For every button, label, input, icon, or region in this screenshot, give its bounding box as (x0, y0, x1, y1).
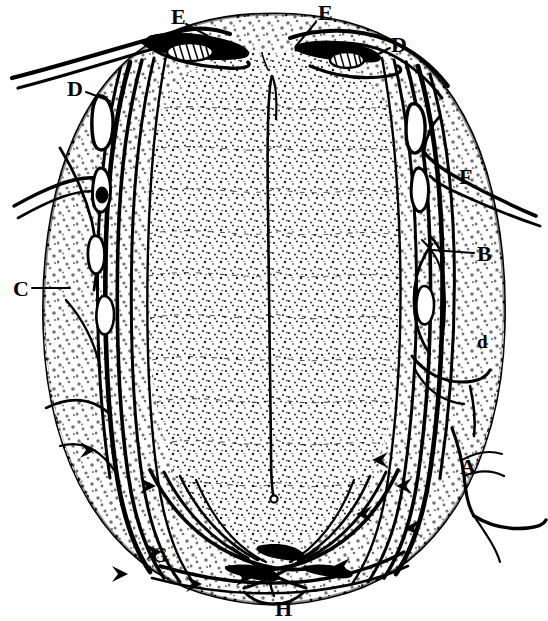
figure-label-D-left: D (67, 78, 83, 100)
figure-label-A: A (460, 456, 476, 478)
figure-label-F: F (459, 166, 472, 188)
anatomical-figure: E E D D F B C d A G H (0, 0, 548, 621)
figure-label-C: C (13, 278, 29, 300)
figure-label-B: B (477, 243, 492, 265)
figure-label-H: H (275, 598, 292, 620)
figure-label-E-right: E (318, 2, 333, 24)
vessel-lumen-right (330, 52, 364, 68)
figure-label-E-left: E (171, 6, 186, 28)
figure-label-D-right: D (391, 34, 407, 56)
figure-label-G: G (151, 544, 168, 566)
figure-label-d: d (477, 332, 488, 351)
